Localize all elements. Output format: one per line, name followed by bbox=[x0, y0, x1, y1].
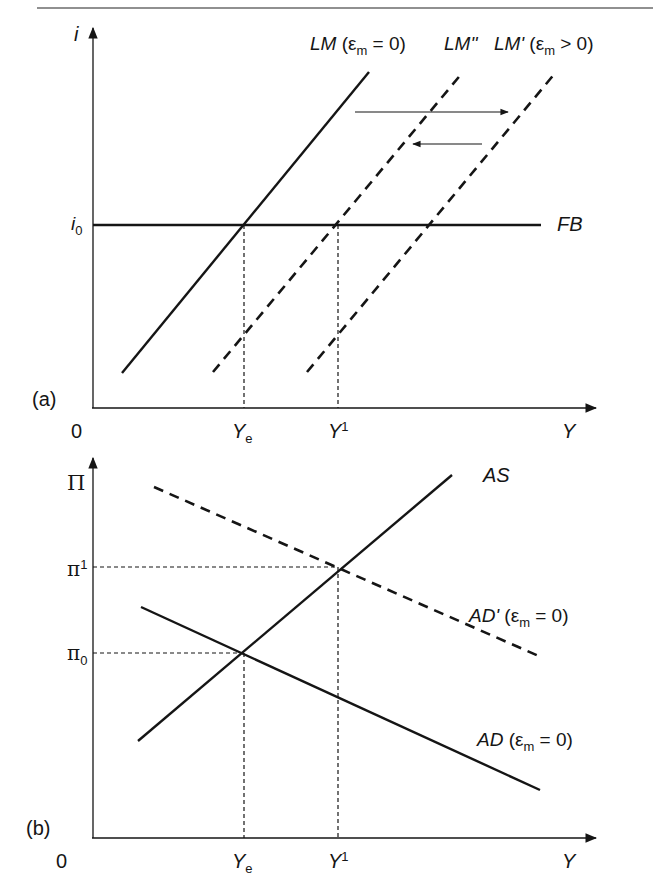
curve-cond: (ε bbox=[504, 605, 519, 626]
panel-b-y-tick-pi0: π0 bbox=[67, 643, 87, 663]
lm-double-prime-label: LM'' bbox=[444, 34, 478, 53]
panel-b-x-tick-y1: Y1 bbox=[328, 851, 349, 871]
panel-b-x-axis-label: Y bbox=[562, 851, 575, 871]
tick-sub: e bbox=[245, 861, 252, 876]
fb-label: FB bbox=[557, 214, 583, 234]
curve-cond-sub: m bbox=[519, 615, 530, 630]
ad-prime-curve bbox=[154, 487, 541, 657]
curve-cond: (ε bbox=[529, 33, 544, 54]
tick-base: Y bbox=[232, 420, 245, 442]
tick-sup: 1 bbox=[341, 849, 348, 864]
lm-curve bbox=[122, 72, 369, 373]
lm-prime-label: LM' (εm > 0) bbox=[494, 34, 594, 53]
lm-prime-curve bbox=[307, 72, 556, 372]
curve-cond-rest: = 0) bbox=[367, 33, 406, 54]
tick-base: π bbox=[67, 557, 80, 581]
tick-base: π bbox=[67, 641, 80, 665]
tick-sup: 1 bbox=[80, 557, 87, 572]
curve-name: LM bbox=[310, 33, 336, 54]
diagram-canvas bbox=[0, 0, 653, 892]
panel-a-x-axis-label: Y bbox=[562, 421, 575, 441]
curve-cond-rest: > 0) bbox=[555, 33, 594, 54]
tick-sub: 0 bbox=[80, 653, 87, 668]
panel-a-y-axis-label: i bbox=[74, 24, 78, 44]
panel-b-y-axis-label: Π bbox=[67, 473, 85, 494]
panel-b-origin: 0 bbox=[56, 851, 67, 871]
curve-cond: (ε bbox=[342, 33, 357, 54]
curve-cond: (ε bbox=[509, 729, 524, 750]
panel-a-y-tick-i0: i0 bbox=[71, 214, 82, 233]
curve-cond-sub: m bbox=[524, 739, 535, 754]
tick-sup: 1 bbox=[341, 419, 348, 434]
panel-a-tag: (a) bbox=[32, 389, 56, 409]
panel-a-origin: 0 bbox=[71, 421, 82, 441]
tick-base: Y bbox=[328, 420, 341, 442]
ad-label: AD (εm = 0) bbox=[477, 730, 573, 749]
panel-b-y-tick-pi1: π1 bbox=[67, 559, 87, 579]
panel-b-x-tick-ye: Ye bbox=[232, 851, 253, 871]
as-label: AS bbox=[483, 465, 510, 485]
panel-a-axes bbox=[92, 28, 596, 408]
ad-curve bbox=[141, 607, 540, 790]
lm-label: LM (εm = 0) bbox=[310, 34, 406, 53]
tick-base: Y bbox=[328, 850, 341, 872]
panel-b-tag: (b) bbox=[26, 818, 50, 838]
tick-base: Y bbox=[232, 850, 245, 872]
tick-sub: e bbox=[245, 431, 252, 446]
curve-cond-rest: = 0) bbox=[530, 605, 569, 626]
curve-cond-sub: m bbox=[357, 43, 368, 58]
tick-sub: 0 bbox=[75, 223, 82, 238]
curve-name: LM' bbox=[494, 33, 524, 54]
ad-prime-label: AD' (εm = 0) bbox=[469, 606, 569, 625]
curve-name: AD' bbox=[469, 605, 499, 626]
curve-name: AD bbox=[477, 729, 503, 750]
panel-a-x-tick-y1: Y1 bbox=[328, 421, 349, 441]
panel-a-x-tick-ye: Ye bbox=[232, 421, 253, 441]
as-curve bbox=[138, 475, 452, 741]
curve-cond-sub: m bbox=[544, 43, 555, 58]
curve-cond-rest: = 0) bbox=[534, 729, 573, 750]
